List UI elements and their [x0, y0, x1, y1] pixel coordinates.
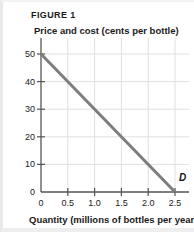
- axis-ticks: [37, 54, 175, 196]
- figure-panel: FIGURE 1 Price and cost (cents per bottl…: [0, 0, 194, 232]
- x-tick-label: 0.5: [55, 198, 81, 208]
- y-tick-label: 30: [15, 104, 35, 114]
- x-tick-label: 2.5: [162, 198, 188, 208]
- y-tick-label: 20: [15, 132, 35, 142]
- y-tick-label: 10: [15, 159, 35, 169]
- y-tick-label: 50: [15, 49, 35, 59]
- x-tick-label: 1.5: [108, 198, 134, 208]
- demand-curve: [41, 54, 175, 192]
- x-tick-label: 1.0: [82, 198, 108, 208]
- y-tick-label: 40: [15, 77, 35, 87]
- gridlines: [41, 38, 189, 192]
- y-tick-label: 0: [15, 187, 35, 197]
- x-tick-label: 0: [28, 198, 54, 208]
- x-tick-label: 2.0: [135, 198, 161, 208]
- demand-curve-label: D: [179, 172, 186, 183]
